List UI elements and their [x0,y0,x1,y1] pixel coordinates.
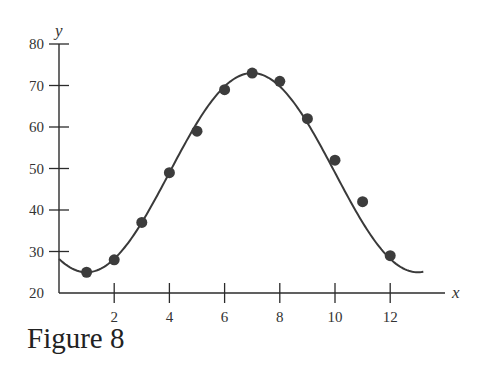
x-axis-label: x [451,283,460,302]
data-point [81,267,92,278]
y-tick-label: 70 [29,78,44,94]
data-point [109,254,120,265]
y-tick-label: 40 [29,202,44,218]
x-tick-label: 12 [383,309,398,325]
y-tick-label: 60 [29,119,44,135]
y-tick-label: 30 [29,244,44,260]
data-point [330,155,341,166]
data-point [164,167,175,178]
x-tick-label: 6 [221,309,229,325]
data-point [302,113,313,124]
x-tick-label: 8 [276,309,284,325]
sinusoid-curve [59,73,423,272]
x-tick-label: 10 [328,309,343,325]
chart-plot: 2468101220304050607080 x y [0,0,487,365]
data-point [219,84,230,95]
data-point [247,68,258,79]
fitted-curve [59,73,423,272]
y-axis-label: y [53,21,63,40]
axis-ticks: 2468101220304050607080 [29,36,398,325]
data-point [136,217,147,228]
data-point [357,196,368,207]
data-points [81,68,396,278]
x-tick-label: 4 [166,309,174,325]
data-point [385,250,396,261]
y-tick-label: 20 [29,285,44,301]
y-tick-label: 80 [29,36,44,52]
data-point [274,76,285,87]
data-point [192,126,203,137]
y-tick-label: 50 [29,161,44,177]
figure-caption: Figure 8 [27,322,124,355]
